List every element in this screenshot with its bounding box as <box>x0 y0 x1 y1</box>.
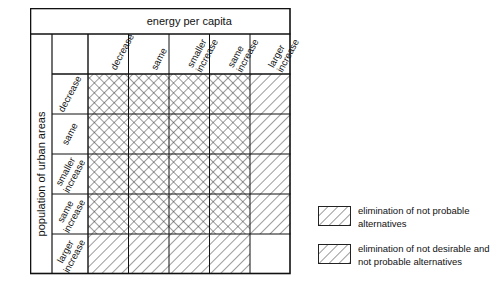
column-header: same <box>148 46 169 72</box>
matrix-cell <box>129 114 170 154</box>
row-axis-title: population of urban areas <box>35 111 47 236</box>
matrix-cell <box>88 74 129 114</box>
matrix-cell <box>169 234 210 274</box>
column-header-line: decrease <box>108 32 136 72</box>
row-header: decrease <box>56 74 84 114</box>
matrix-cell <box>250 154 291 194</box>
matrix-cell <box>88 154 129 194</box>
column-header: sameincrease <box>225 32 260 74</box>
matrix-cell <box>88 234 129 274</box>
matrix-diagram: energy per capitapopulation of urban are… <box>30 8 305 293</box>
matrix-svg: energy per capitapopulation of urban are… <box>30 8 305 293</box>
matrix-cell <box>129 234 170 274</box>
row-header: sameincrease <box>52 193 87 235</box>
row-header: smallerincrease <box>52 153 87 195</box>
legend-swatch-both <box>318 244 351 264</box>
matrix-cell <box>129 154 170 194</box>
matrix-cell <box>250 74 291 114</box>
matrix-cells <box>88 74 291 274</box>
column-header: smallerincrease <box>185 32 220 74</box>
matrix-cell <box>169 154 210 194</box>
matrix-cell <box>169 74 210 114</box>
legend-label-single: elimination of not probable alternatives <box>358 205 490 230</box>
matrix-cell <box>210 154 251 194</box>
legend-label-both: elimination of not desirable and not pro… <box>358 243 490 268</box>
matrix-cell <box>129 74 170 114</box>
matrix-cell <box>129 194 170 234</box>
matrix-cell <box>250 114 291 154</box>
legend-item: elimination of not desirable and not pro… <box>318 243 490 268</box>
row-header-line: decrease <box>56 74 84 114</box>
row-header: largerincrease <box>52 233 87 275</box>
matrix-cell <box>210 194 251 234</box>
column-header-line: same <box>148 46 169 72</box>
legend-item: elimination of not probable alternatives <box>318 205 490 230</box>
matrix-cell <box>210 114 251 154</box>
column-header: decrease <box>108 32 136 72</box>
row-header: same <box>59 121 80 147</box>
legend: elimination of not probable alternatives… <box>318 205 490 281</box>
legend-swatch-single <box>318 206 351 226</box>
matrix-cell <box>88 114 129 154</box>
matrix-cell <box>88 194 129 234</box>
row-header-line: same <box>59 121 80 147</box>
matrix-cell <box>210 74 251 114</box>
matrix-cell <box>210 234 251 274</box>
matrix-cell <box>169 114 210 154</box>
column-header: largerincrease <box>266 32 301 74</box>
matrix-cell <box>250 194 291 234</box>
column-axis-title: energy per capita <box>147 15 233 27</box>
matrix-cell <box>169 194 210 234</box>
